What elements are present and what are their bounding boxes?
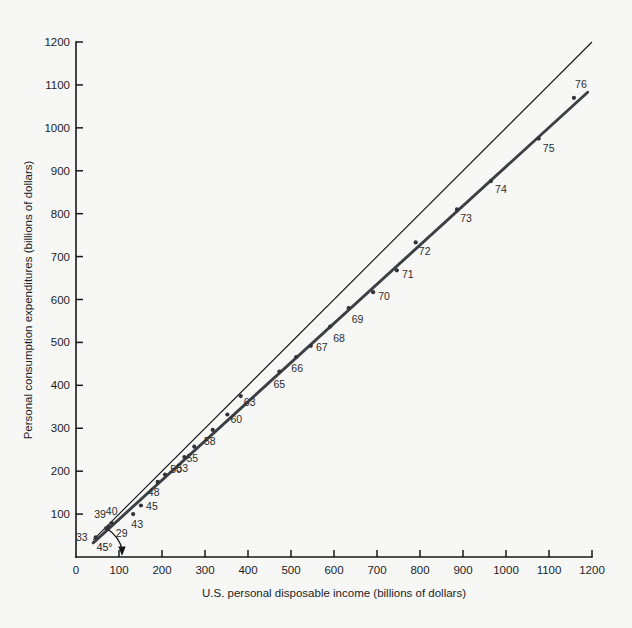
data-point-label: 67 (316, 341, 328, 353)
data-point-label: 72 (419, 245, 431, 257)
data-point-label: 45 (146, 500, 158, 512)
data-point-label: 66 (291, 362, 303, 374)
x-tick-label: 700 (367, 564, 386, 576)
data-point-label: 75 (543, 142, 555, 154)
data-point (371, 290, 375, 294)
x-tick-label: 0 (73, 564, 79, 576)
data-point (94, 535, 98, 539)
data-point-label: 74 (495, 183, 507, 195)
data-point (239, 394, 243, 398)
y-tick-label: 600 (51, 294, 70, 306)
data-point (139, 503, 143, 507)
x-tick-label: 1200 (579, 564, 605, 576)
data-point (455, 207, 459, 211)
data-point-label: 58 (204, 435, 216, 447)
data-point-label: 69 (352, 313, 364, 325)
angle-label: 45° (97, 541, 113, 553)
y-tick-label: 800 (51, 208, 70, 220)
y-tick-label: 200 (51, 465, 70, 477)
data-point (414, 240, 418, 244)
y-tick-label: 700 (51, 251, 70, 263)
data-point-label: 70 (378, 290, 390, 302)
chart-canvas: 100200300400500600700800900100011001200 … (0, 0, 632, 628)
data-point (537, 136, 541, 140)
data-point-label: 33 (76, 531, 88, 543)
x-tick-label: 400 (238, 564, 257, 576)
x-tick-label: 200 (152, 564, 171, 576)
data-point-label: 29 (116, 527, 128, 539)
data-point-label: 43 (131, 518, 143, 530)
data-point (192, 445, 196, 449)
x-tick-label: 600 (324, 564, 343, 576)
y-tick-label: 900 (51, 165, 70, 177)
data-point-label: 39 (94, 508, 106, 520)
x-tick-label: 300 (195, 564, 214, 576)
data-point-label: 63 (244, 396, 256, 408)
data-point (225, 412, 229, 416)
data-point-label: 55 (186, 452, 198, 464)
x-axis-title: U.S. personal disposable income (billion… (202, 587, 466, 599)
data-point-label: 68 (333, 332, 345, 344)
data-point (277, 370, 281, 374)
y-tick-label: 100 (51, 508, 70, 520)
y-tick-label: 1000 (44, 122, 70, 134)
y-tick-label: 300 (51, 422, 70, 434)
data-point-label: 65 (274, 378, 286, 390)
data-point-label: 53 (177, 462, 189, 474)
data-point-label: 73 (460, 212, 472, 224)
data-point-label: 71 (402, 268, 414, 280)
data-point (328, 324, 332, 328)
x-tick-label: 1100 (537, 564, 562, 576)
data-point-label: 48 (148, 486, 160, 498)
data-point (156, 480, 160, 484)
x-tick-label: 800 (410, 564, 429, 576)
data-point-label: 60 (231, 413, 243, 425)
y-tick-label: 1100 (45, 79, 70, 91)
data-point (211, 428, 215, 432)
y-tick-label: 1200 (44, 36, 70, 48)
y-axis-title: Personal consumption expenditures (billi… (22, 160, 34, 439)
y-tick-label: 500 (51, 336, 70, 348)
data-point (107, 524, 111, 528)
data-point (347, 306, 351, 310)
scatter-plot-figure: 100200300400500600700800900100011001200 … (0, 0, 632, 628)
figure-background (0, 0, 632, 628)
y-tick-label: 400 (51, 379, 70, 391)
data-point-label: 40 (106, 505, 118, 517)
data-point (131, 512, 135, 516)
x-tick-label: 1000 (493, 564, 519, 576)
data-point (309, 344, 313, 348)
data-point-label: 76 (575, 78, 587, 90)
x-tick-label: 100 (109, 564, 128, 576)
data-point (110, 521, 114, 525)
data-point (163, 473, 167, 477)
x-tick-label: 500 (281, 564, 300, 576)
data-point (395, 268, 399, 272)
data-point (489, 179, 493, 183)
data-point (294, 355, 298, 359)
data-point (572, 96, 576, 100)
x-tick-label: 900 (453, 564, 472, 576)
